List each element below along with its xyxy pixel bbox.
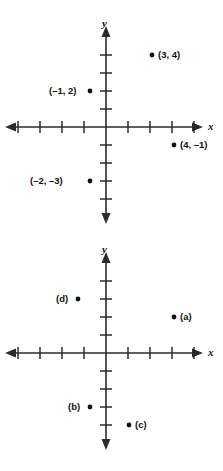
y-axis-label-top: y <box>102 18 107 29</box>
y-axis-arrow-down-top <box>102 213 111 224</box>
x-axis-label-bottom: x <box>208 347 214 358</box>
point-dot-n2-n3 <box>88 179 93 184</box>
y-axis-label-bottom: y <box>102 244 107 255</box>
point-dot-a <box>172 315 177 320</box>
point-dot-3-4 <box>150 53 155 58</box>
point-label-4-n1: (4, –1) <box>180 140 207 150</box>
coordinate-plane-top: y x (3, 4) (–1, 2) (4, –1) (–2, –3) <box>0 0 223 236</box>
coordinate-plane-bottom: y x (a) (b) (c) (d) <box>0 236 223 471</box>
point-label-b: (b) <box>68 402 80 412</box>
point-label-c: (c) <box>135 420 147 430</box>
coordinate-plane-figure-top: y x (3, 4) (–1, 2) (4, –1) (–2, –3) <box>0 0 223 236</box>
point-dot-d <box>76 297 81 302</box>
point-dot-c <box>127 423 132 428</box>
point-label-a: (a) <box>180 312 192 322</box>
point-label-d: (d) <box>56 294 68 304</box>
point-dot-n1-2 <box>88 89 93 94</box>
point-label-3-4: (3, 4) <box>158 50 180 60</box>
y-axis-arrow-down-bottom <box>102 439 111 450</box>
coordinate-axes-top-svg <box>0 0 223 236</box>
point-dot-4-n1 <box>172 143 177 148</box>
x-axis-arrow-left-bottom <box>5 349 16 358</box>
coordinate-plane-figure-bottom: y x (a) (b) (c) (d) <box>0 236 223 471</box>
x-axis-label-top: x <box>208 121 214 132</box>
point-label-n2-n3: (–2, –3) <box>30 176 63 186</box>
x-axis-arrow-left-top <box>5 123 16 132</box>
point-dot-b <box>88 405 93 410</box>
coordinate-axes-bottom-svg <box>0 236 223 471</box>
point-label-n1-2: (–1, 2) <box>49 86 76 96</box>
